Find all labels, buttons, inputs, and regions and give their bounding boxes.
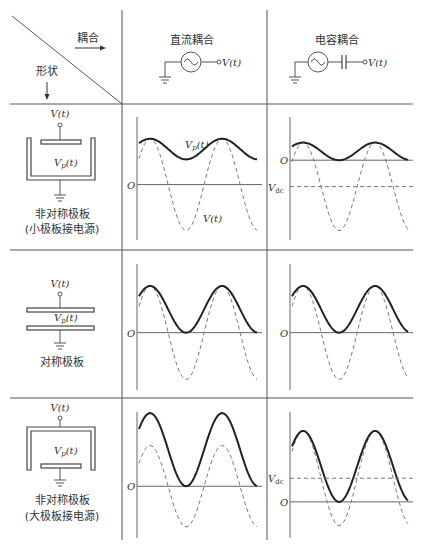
row-sym-shape: V(t) Vp(t) 对称极板 bbox=[27, 278, 94, 369]
shape-title: 非对称极板 bbox=[35, 493, 90, 507]
plasma-potential-label: Vp(t) bbox=[54, 312, 78, 325]
output-terminal-icon bbox=[363, 60, 367, 64]
capacitive-coupling-title: 电容耦合 bbox=[315, 33, 359, 47]
plasma-potential-label: Vp(t) bbox=[54, 157, 78, 170]
row-asym-small-shape: V(t) Vp(t) 非对称极板 (小极板接电源) bbox=[25, 108, 100, 236]
ground-icon bbox=[54, 195, 66, 201]
shape-subtitle: (大极板接电源) bbox=[25, 509, 100, 523]
header-capacitive-coupling: 电容耦合 V(t) bbox=[289, 33, 387, 83]
output-terminal-icon bbox=[217, 60, 221, 64]
cap-output-label: V(t) bbox=[368, 57, 387, 68]
vp-plasma-curve bbox=[292, 431, 408, 502]
ground-icon bbox=[54, 343, 66, 349]
origin-label: O bbox=[280, 155, 288, 166]
origin-label: O bbox=[280, 328, 288, 339]
ground-icon bbox=[54, 480, 66, 486]
vdc-label: Vdc bbox=[268, 473, 284, 486]
vp-plasma-curve bbox=[139, 286, 257, 333]
header-diagonal bbox=[12, 16, 122, 104]
capacitor-icon bbox=[342, 55, 346, 69]
shape-title: 非对称极板 bbox=[35, 207, 90, 221]
dc-coupling-title: 直流耦合 bbox=[170, 33, 214, 47]
right-arrow-icon bbox=[75, 46, 106, 51]
origin-label: O bbox=[280, 497, 288, 508]
shape-axis-label: 形状 bbox=[36, 64, 58, 78]
v-curve-label: V(t) bbox=[203, 213, 222, 224]
vdc-label: Vdc bbox=[268, 182, 284, 195]
row-asym-large-shape: V(t) Vp(t) 非对称极板 (大极板接电源) bbox=[25, 402, 100, 523]
input-voltage-label: V(t) bbox=[50, 108, 69, 119]
ground-icon bbox=[289, 77, 301, 83]
vp-plasma-curve bbox=[292, 143, 408, 161]
plasma-potential-label: Vp(t) bbox=[54, 445, 78, 458]
bottom-plate bbox=[27, 326, 94, 330]
vp-plasma-curve bbox=[139, 413, 257, 486]
vp-plasma-curve bbox=[292, 286, 408, 333]
plasma-coupling-diagram: 耦合 形状 直流耦合 V(t) 电容耦合 bbox=[0, 0, 421, 554]
origin-label: O bbox=[127, 481, 135, 492]
small-grounded-plate bbox=[41, 464, 81, 468]
ground-icon bbox=[159, 77, 171, 83]
down-arrow-icon bbox=[45, 82, 50, 100]
header-corner: 耦合 形状 bbox=[36, 31, 106, 100]
origin-label: O bbox=[127, 180, 135, 191]
shape-subtitle: (小极板接电源) bbox=[25, 222, 100, 236]
small-powered-plate bbox=[41, 140, 81, 144]
input-voltage-label: V(t) bbox=[50, 402, 69, 413]
ac-source-icon bbox=[181, 52, 201, 72]
ground-wire bbox=[165, 62, 181, 77]
input-voltage-label: V(t) bbox=[50, 278, 69, 289]
vp-curve-label: Vp(t) bbox=[185, 139, 209, 152]
ac-source-icon bbox=[308, 52, 328, 72]
dc-output-label: V(t) bbox=[222, 57, 241, 68]
header-dc-coupling: 直流耦合 V(t) bbox=[159, 33, 241, 83]
shape-title: 对称极板 bbox=[40, 355, 84, 369]
waveform-plots: OVp(t)V(t)OVdcOOOOVdc bbox=[127, 117, 413, 538]
origin-label: O bbox=[127, 328, 135, 339]
coupling-axis-label: 耦合 bbox=[77, 31, 99, 45]
